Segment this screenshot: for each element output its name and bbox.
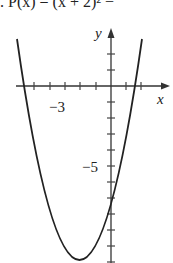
parabola-graph: y x −3 −5: [0, 0, 173, 263]
y-axis: [107, 28, 115, 263]
y-axis-label: y: [93, 25, 102, 41]
x-axis: [16, 82, 170, 90]
x-axis-label: x: [156, 91, 164, 107]
y-tick-label: −5: [82, 159, 98, 175]
parabola-curve: [17, 39, 142, 260]
x-axis-arrow-icon: [161, 83, 170, 90]
x-tick-label: −3: [49, 99, 65, 115]
y-axis-arrow-icon: [108, 28, 115, 38]
